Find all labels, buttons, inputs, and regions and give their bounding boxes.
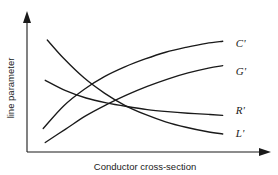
curve-g-prime	[45, 66, 222, 143]
chart-figure: C' G' R' L' Conductor cross-section line…	[0, 0, 278, 175]
y-axis-title: line parameter	[5, 58, 16, 119]
x-axis-arrow-icon	[259, 148, 271, 156]
curve-label-g-prime: G'	[236, 65, 247, 77]
curve-label-r-prime: R'	[235, 104, 246, 116]
curve-label-l-prime: L'	[235, 127, 245, 139]
y-axis-arrow-icon	[23, 11, 31, 23]
x-axis-title: Conductor cross-section	[94, 161, 196, 172]
curve-l-prime	[47, 40, 222, 134]
chart-plot-area: C' G' R' L' Conductor cross-section line…	[0, 0, 278, 175]
curve-c-prime	[43, 41, 223, 128]
curve-label-c-prime: C'	[236, 37, 246, 49]
